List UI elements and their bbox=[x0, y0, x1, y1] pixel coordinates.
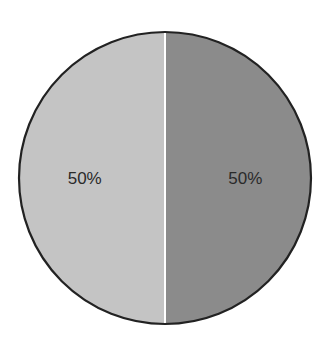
pie-chart: 50% 50% bbox=[0, 0, 334, 348]
slice-label-right: 50% bbox=[228, 169, 262, 188]
slice-label-left: 50% bbox=[68, 169, 102, 188]
